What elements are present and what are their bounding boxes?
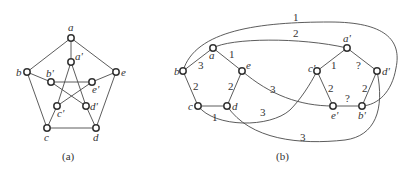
label-c: c (188, 100, 193, 112)
label-a: a (68, 21, 74, 33)
node-b (24, 69, 30, 75)
weight-cprime-eprime: 2 (328, 82, 334, 94)
caption-b: (b) (276, 150, 289, 163)
label-a: a (209, 49, 215, 61)
node-aprime (68, 59, 74, 65)
weight-aprime-cprime: 1 (331, 59, 337, 71)
label-eprime: e' (331, 109, 339, 121)
weight-d-dprime: 3 (300, 131, 306, 143)
edge-b-c (27, 72, 47, 128)
node-a (68, 35, 74, 41)
label-dprime: d' (382, 65, 391, 77)
weight-aprime-dprime: ? (356, 59, 361, 71)
label-bprime: b' (358, 109, 367, 121)
label-bprime: b' (46, 67, 55, 79)
label-eprime: e' (92, 83, 100, 95)
node-dprime (374, 68, 380, 74)
weight-eprime-bprime: ? (345, 92, 350, 104)
label-c: c (44, 131, 49, 143)
node-bprime (48, 79, 54, 85)
label-dprime: d' (90, 100, 99, 112)
weight-c-cprime: 3 (260, 106, 266, 118)
node-d (224, 103, 230, 109)
split-graph: a b c d e a' c' d' e' b' 1 3 2 2 1 1 2 3… (174, 11, 397, 163)
label-aprime: a' (343, 32, 352, 44)
label-b: b (16, 66, 22, 78)
weight-dprime-bprime: 2 (362, 82, 368, 94)
label-b: b (174, 65, 180, 77)
node-dprime (83, 103, 89, 109)
node-c (195, 103, 201, 109)
diagram-canvas: a b c d e a' b' c' d' e' (a) (0, 0, 415, 171)
node-aprime (344, 45, 350, 51)
weight-c-d: 1 (212, 111, 218, 123)
label-cprime: c' (57, 107, 65, 119)
weight-a-aprime: 2 (293, 27, 299, 39)
weight-b-bprime-outer: 1 (293, 11, 299, 23)
caption-a: (a) (62, 150, 75, 163)
petersen-graph: a b c d e a' b' c' d' e' (a) (16, 21, 126, 163)
label-cprime: c' (308, 62, 316, 74)
label-aprime: a' (75, 50, 84, 62)
node-e (239, 68, 245, 74)
node-b (180, 68, 186, 74)
label-d: d (232, 100, 238, 112)
edge-a-aprime (213, 40, 347, 48)
weight-b-c: 2 (193, 80, 199, 92)
edge-aprime-cprime (57, 62, 71, 106)
edge-aprime-dprime (71, 62, 86, 106)
weight-e-d: 2 (228, 80, 234, 92)
label-d: d (93, 131, 99, 143)
node-e (113, 69, 119, 75)
edge-aprime-dprime (347, 48, 377, 71)
edge-a-e (213, 48, 242, 71)
weight-a-e: 1 (229, 48, 235, 60)
weight-a-b: 3 (198, 59, 204, 71)
weight-e-eprime: 3 (270, 83, 276, 95)
figure-stage: a b c d e a' b' c' d' e' (a) (0, 0, 415, 171)
edge-d-e (96, 72, 116, 128)
label-e: e (121, 66, 126, 78)
label-e: e (246, 59, 251, 71)
